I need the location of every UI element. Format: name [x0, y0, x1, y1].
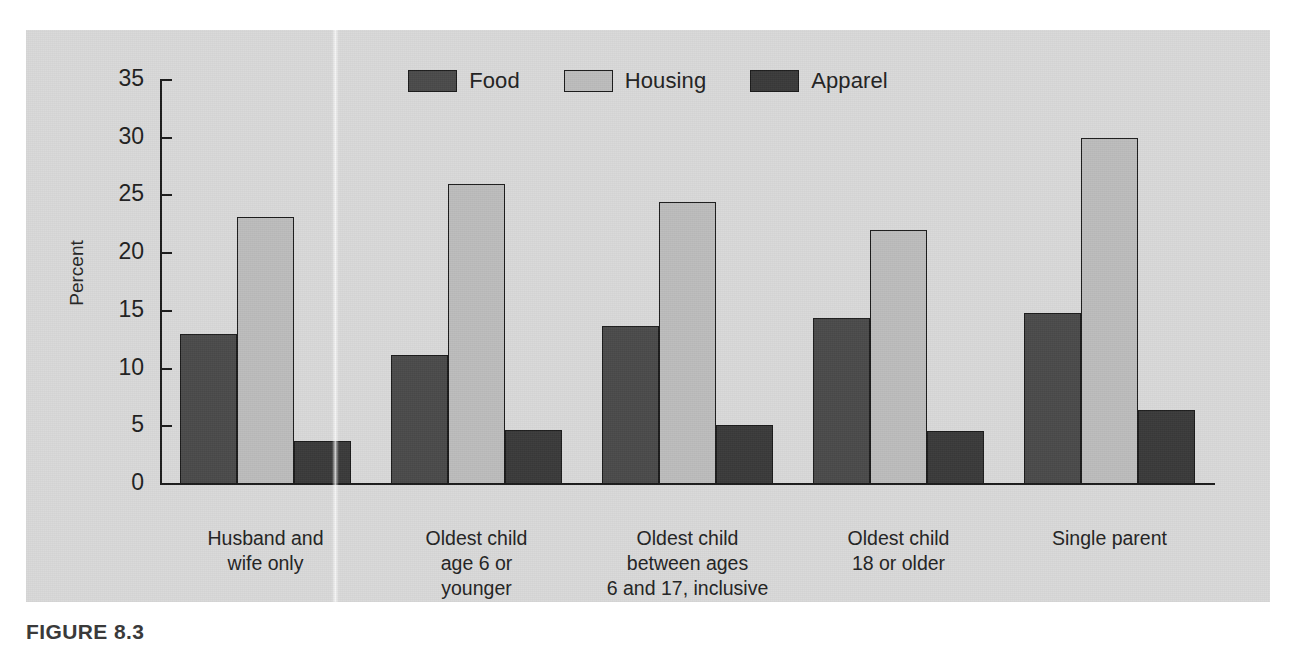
category-label-line: Husband and — [160, 526, 371, 551]
legend-label-apparel: Apparel — [811, 68, 888, 94]
bar-apparel-group-2 — [505, 430, 562, 484]
legend-label-food: Food — [469, 68, 520, 94]
bar-food-group-3 — [602, 326, 659, 484]
bar-food-group-4 — [813, 318, 870, 484]
category-label-3: Oldest childbetween ages6 and 17, inclus… — [582, 526, 793, 601]
bars-layer — [160, 80, 1215, 484]
y-tick-label-5: 5 — [88, 411, 144, 438]
y-tick-label-15: 15 — [88, 296, 144, 323]
figure-caption: FIGURE 8.3 — [26, 620, 144, 644]
scanned-figure-panel: Food Housing Apparel Percent 05101520253… — [26, 30, 1270, 602]
category-label-5: Single parent — [1004, 526, 1215, 551]
category-label-line: age 6 or — [371, 551, 582, 576]
y-tick-label-0: 0 — [88, 469, 144, 496]
category-label-line: 6 and 17, inclusive — [582, 576, 793, 601]
category-label-1: Husband andwife only — [160, 526, 371, 576]
y-tick-label-20: 20 — [88, 238, 144, 265]
legend-swatch-food — [408, 70, 457, 92]
bar-housing-group-2 — [448, 184, 505, 484]
y-tick-label-30: 30 — [88, 123, 144, 150]
category-label-line: younger — [371, 576, 582, 601]
bar-housing-group-5 — [1081, 138, 1138, 484]
plot-area: Percent 05101520253035 Husband andwife o… — [26, 30, 1270, 602]
category-labels: Husband andwife onlyOldest childage 6 or… — [160, 492, 1215, 592]
category-label-line: between ages — [582, 551, 793, 576]
chart-legend: Food Housing Apparel — [26, 68, 1270, 94]
legend-item-apparel: Apparel — [750, 68, 888, 94]
bar-food-group-5 — [1024, 313, 1081, 484]
legend-swatch-apparel — [750, 70, 799, 92]
category-label-line: Oldest child — [793, 526, 1004, 551]
category-label-line: Oldest child — [582, 526, 793, 551]
bar-housing-group-4 — [870, 230, 927, 484]
legend-item-food: Food — [408, 68, 520, 94]
bar-food-group-2 — [391, 355, 448, 484]
legend-item-housing: Housing — [564, 68, 706, 94]
category-label-line: Single parent — [1004, 526, 1215, 551]
bar-apparel-group-3 — [716, 425, 773, 484]
category-label-2: Oldest childage 6 oryounger — [371, 526, 582, 601]
category-label-line: wife only — [160, 551, 371, 576]
legend-label-housing: Housing — [625, 68, 706, 94]
bar-apparel-group-1 — [294, 441, 351, 484]
y-tick-label-10: 10 — [88, 354, 144, 381]
bar-housing-group-3 — [659, 202, 716, 484]
category-label-line: 18 or older — [793, 551, 1004, 576]
bar-housing-group-1 — [237, 217, 294, 484]
bar-apparel-group-4 — [927, 431, 984, 484]
bar-apparel-group-5 — [1138, 410, 1195, 484]
y-axis-label: Percent — [66, 213, 88, 333]
category-label-line: Oldest child — [371, 526, 582, 551]
bar-food-group-1 — [180, 334, 237, 484]
y-tick-label-25: 25 — [88, 180, 144, 207]
figure-page: Food Housing Apparel Percent 05101520253… — [0, 0, 1296, 656]
legend-swatch-housing — [564, 70, 613, 92]
category-label-4: Oldest child18 or older — [793, 526, 1004, 576]
